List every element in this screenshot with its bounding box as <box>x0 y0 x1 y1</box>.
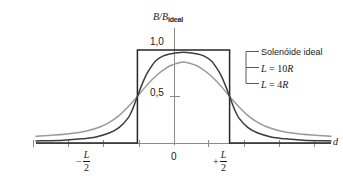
y-axis-title-main: B/B <box>153 11 168 22</box>
legend-10r-equals: = 10 <box>267 63 288 74</box>
x-tick-label-origin: 0 <box>171 152 177 162</box>
legend-label-l-4r: L = 4R <box>261 79 288 90</box>
legend-4r-equals: = 4 <box>267 79 283 90</box>
legend-leader-lines <box>246 52 259 84</box>
legend-4r-unit: R <box>282 79 288 90</box>
y-tick-label-1-0: 1,0 <box>150 37 164 47</box>
chart-figure: B/Bideal 1,0 0,5 0 − L 2 + L 2 d Solenói… <box>0 0 343 181</box>
legend-label-l-10r: L = 10R <box>261 63 293 74</box>
y-axis-title: B/Bideal <box>153 12 183 23</box>
y-axis-title-subscript: ideal <box>168 16 183 23</box>
y-tick-label-0-5: 0,5 <box>150 88 164 98</box>
minus-sign: − <box>76 156 83 167</box>
fraction-denominator: 2 <box>220 163 228 174</box>
legend-10r-unit: R <box>287 63 293 74</box>
fraction-numerator: L <box>220 150 228 161</box>
fraction-numerator: L <box>83 150 91 161</box>
x-tick-label-negative-half-l: − L 2 <box>76 150 90 173</box>
x-tick-label-positive-half-l: + L 2 <box>213 150 227 173</box>
legend-label-solenoide-ideal: Solenóide ideal <box>261 47 323 57</box>
x-axis-name: d <box>333 137 338 147</box>
plus-sign: + <box>213 156 220 167</box>
fraction-denominator: 2 <box>83 163 91 174</box>
